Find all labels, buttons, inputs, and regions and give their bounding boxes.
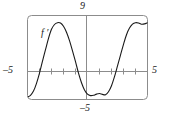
x-min-label: –5: [3, 65, 13, 75]
plot-canvas: [0, 0, 169, 117]
graph-figure: 9 –5 –5 5 f ′: [0, 0, 169, 117]
curve-label-f-prime: f ′: [41, 28, 48, 38]
y-min-label: –5: [80, 103, 90, 113]
y-max-label: 9: [80, 1, 85, 11]
x-max-label: 5: [152, 65, 157, 75]
